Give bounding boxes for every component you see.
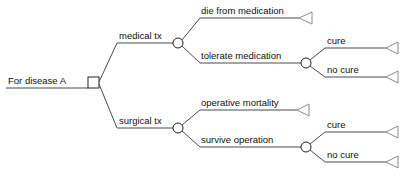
branch-label-medical-tx: medical tx	[119, 30, 162, 41]
edge-medical-to-die	[182, 18, 299, 40]
tolerate-chance-node[interactable]	[301, 58, 311, 68]
terminal-surgical-no-cure[interactable]	[386, 156, 398, 168]
outcome-label-tolerate-medication: tolerate medication	[201, 50, 281, 61]
outcome-label-survive-operation: survive operation	[201, 134, 273, 145]
outcome-label-operative-mortality: operative mortality	[201, 97, 279, 108]
survive-chance-node[interactable]	[301, 142, 311, 152]
terminal-medical-cure[interactable]	[386, 42, 398, 54]
terminal-medical-no-cure[interactable]	[386, 71, 398, 83]
terminal-surgical-cure[interactable]	[386, 126, 398, 138]
surgical-chance-node[interactable]	[173, 123, 183, 133]
edge-tolerate-to-cure	[310, 48, 386, 60]
outcome-label-surgical-no-cure: no cure	[327, 149, 359, 160]
terminal-die-from-medication[interactable]	[299, 12, 312, 24]
outcome-label-medical-no-cure: no cure	[327, 64, 359, 75]
branch-label-surgical-tx: surgical tx	[119, 115, 162, 126]
terminal-operative-mortality[interactable]	[297, 104, 309, 116]
outcome-label-surgical-cure: cure	[327, 119, 345, 130]
root-decision-node[interactable]	[88, 77, 99, 88]
edge-root-to-medical	[99, 43, 173, 82]
edge-surgical-to-operative-mortality	[182, 110, 297, 125]
root-label: For disease A	[8, 75, 66, 86]
edge-survive-to-cure	[310, 132, 386, 144]
outcome-label-medical-cure: cure	[327, 35, 345, 46]
medical-chance-node[interactable]	[173, 38, 183, 48]
outcome-label-die-from-medication: die from medication	[201, 5, 284, 16]
decision-tree-diagram: For disease A medical tx surgical tx die…	[0, 0, 413, 178]
